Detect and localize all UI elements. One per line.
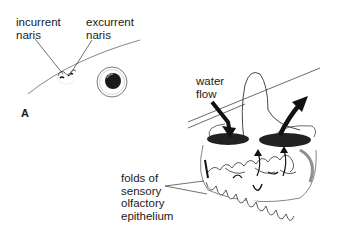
incurrent-leader	[35, 39, 63, 74]
excurrent-leader	[71, 40, 92, 73]
incurrent-naris-label: incurrent naris	[16, 16, 61, 41]
olfactory-diagram: incurrent naris excurrent naris A water …	[0, 0, 340, 231]
excurrent-naris-label: excurrent naris	[86, 16, 134, 41]
folds-label: folds of sensory olfactory epithelium	[121, 172, 173, 222]
nasal-flap	[242, 72, 300, 140]
excurrent-opening	[259, 133, 311, 147]
panel-label: A	[21, 107, 29, 119]
epithelial-folds	[206, 155, 296, 221]
nares-icon	[58, 70, 76, 84]
water-flow-label: water flow	[196, 75, 224, 100]
eye-icon	[97, 67, 127, 97]
